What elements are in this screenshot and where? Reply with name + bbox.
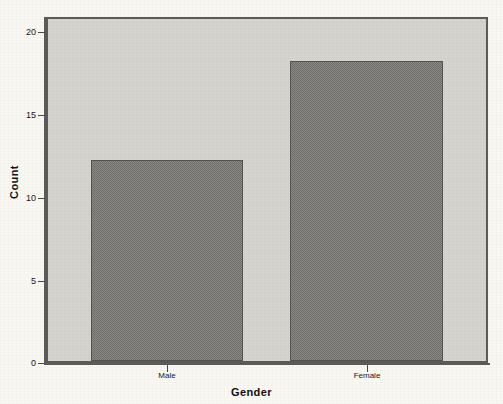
y-tick-mark-15: [38, 115, 45, 116]
y-tick-mark-20: [38, 32, 45, 33]
bar-female[interactable]: [290, 61, 443, 361]
y-tick-mark-5: [38, 281, 45, 282]
y-tick-mark-10: [38, 198, 45, 199]
y-tick-label-5: 5: [8, 277, 36, 286]
y-axis-title: Count: [8, 152, 20, 212]
bar-chart: 20 15 10 5 0 Count Male Female Gender: [0, 0, 503, 404]
plot-inner-canvas: [48, 19, 486, 361]
x-tick-label-male: Male: [122, 372, 212, 381]
y-axis-line: [44, 17, 46, 365]
x-axis-line: [44, 363, 490, 365]
plot-area: [46, 17, 488, 363]
y-tick-label-0: 0: [8, 359, 36, 368]
y-tick-label-20: 20: [8, 28, 36, 37]
bar-male[interactable]: [91, 160, 243, 361]
y-tick-label-15: 15: [8, 111, 36, 120]
x-tick-label-female: Female: [322, 372, 412, 381]
x-axis-title: Gender: [0, 386, 503, 398]
